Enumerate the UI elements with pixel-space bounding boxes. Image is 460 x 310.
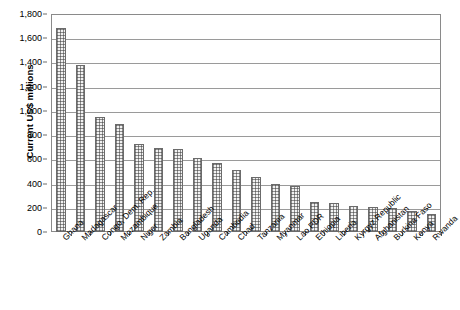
gridline (52, 160, 440, 161)
y-axis-tick-label: 1,000 (19, 106, 42, 115)
y-axis-tick-label: 600 (27, 155, 42, 164)
y-axis-tick-mark (43, 183, 47, 184)
y-axis-tick-mark (43, 232, 47, 233)
y-axis-tick-mark (43, 207, 47, 208)
gridline (52, 112, 440, 113)
plot-area (51, 14, 441, 232)
y-axis-tick-mark (43, 135, 47, 136)
y-axis-tick-mark (43, 159, 47, 160)
gridline (52, 185, 440, 186)
y-axis-tick-label: 1,200 (19, 82, 42, 91)
y-axis-tick-label: 1,400 (19, 58, 42, 67)
x-axis-tick-labels: GhanaMadagascarCongo, Dem. Rep.Mozambiqu… (51, 236, 448, 310)
y-axis-tick-label: 0 (37, 228, 42, 237)
gridlines (52, 15, 440, 231)
y-axis-tick-mark (43, 38, 47, 39)
y-axis-tick-label: 200 (27, 203, 42, 212)
gridline (52, 63, 440, 64)
y-axis-tick-labels: 1,8001,6001,4001,2001,0008006004002000 (0, 14, 47, 232)
y-axis-tick-label: 400 (27, 179, 42, 188)
y-axis-tick-mark (43, 86, 47, 87)
gridline (52, 88, 440, 89)
gridline (52, 39, 440, 40)
y-axis-tick-mark (43, 14, 47, 15)
y-axis-tick-mark (43, 110, 47, 111)
y-axis-tick-label: 1,800 (19, 10, 42, 19)
gridline (52, 136, 440, 137)
y-axis-tick-mark (43, 62, 47, 63)
y-axis-tick-label: 1,600 (19, 34, 42, 43)
y-axis-tick-label: 800 (27, 131, 42, 140)
